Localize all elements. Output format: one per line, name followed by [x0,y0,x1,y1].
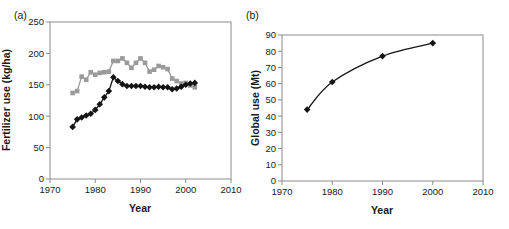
data-point-gray-squares [143,61,148,66]
x-tick-label: 2010 [220,184,241,195]
y-tick-label: 200 [28,48,44,59]
data-point-gray-squares [138,56,143,61]
data-point-gray-squares [84,77,89,82]
x-tick-label: 2000 [175,184,196,195]
data-point-gray-squares [107,69,112,74]
panel-b-label: (b) [246,9,259,21]
data-point-black-diamonds [429,40,436,47]
y-tick-label: 0 [271,175,276,186]
data-point-gray-squares [111,59,116,64]
data-point-gray-squares [170,76,175,81]
x-tick-label: 1980 [85,184,106,195]
panel-b-x-axis-title: Year [371,204,393,216]
data-point-gray-squares [70,91,75,96]
data-point-gray-squares [125,61,130,66]
data-point-gray-squares [88,70,93,75]
series-line-black-diamonds [73,77,195,127]
plot-area-a: 05010015020025019701980199020002010 [28,16,241,195]
data-point-gray-squares [174,79,179,84]
x-tick-label: 1970 [271,186,292,197]
data-point-gray-squares [134,61,139,66]
data-point-gray-squares [152,67,157,72]
figure-canvas: (a) Fertilizer use (kg/ha) 0501001502002… [0,0,509,229]
data-point-gray-squares [97,71,102,76]
chart-panel-b: (b) Global use (Mt) 01020304050607080901… [244,0,509,229]
data-point-gray-squares [147,69,152,74]
y-tick-label: 150 [28,79,44,90]
x-tick-label: 2010 [472,186,493,197]
plot-border [50,22,231,179]
x-tick-label: 1970 [39,184,60,195]
y-tick-label: 0 [39,173,44,184]
data-point-gray-squares [120,56,125,61]
x-tick-label: 1980 [322,186,343,197]
chart-panel-a: (a) Fertilizer use (kg/ha) 0501001502002… [0,0,250,229]
y-tick-label: 60 [265,78,276,89]
data-point-black-diamonds [379,53,386,60]
y-tick-label: 40 [265,111,276,122]
x-tick-label: 2000 [422,186,443,197]
series-line-black-diamonds [307,43,433,110]
y-tick-label: 70 [265,62,276,73]
panel-a-y-axis-title: Fertilizer use (kg/ha) [0,49,12,151]
data-point-gray-squares [102,70,107,75]
data-point-gray-squares [161,65,166,70]
y-tick-label: 250 [28,16,44,27]
x-tick-label: 1990 [130,184,151,195]
y-tick-label: 50 [33,142,44,153]
data-point-gray-squares [116,59,121,64]
panel-b-y-axis-title: Global use (Mt) [249,70,261,146]
panel-a-label: (a) [14,9,27,21]
data-point-gray-squares [129,66,134,71]
x-tick-label: 1990 [372,186,393,197]
data-point-gray-squares [165,67,170,72]
plot-area-b: 010203040506070809019701980199020002010 [265,29,493,197]
y-tick-label: 50 [265,94,276,105]
y-tick-label: 90 [265,29,276,40]
data-point-gray-squares [156,64,161,69]
y-tick-label: 30 [265,127,276,138]
data-point-gray-squares [93,72,98,77]
y-tick-label: 80 [265,46,276,57]
y-tick-label: 10 [265,159,276,170]
y-tick-label: 100 [28,111,44,122]
y-tick-label: 20 [265,143,276,154]
data-point-gray-squares [75,89,80,94]
data-point-gray-squares [79,74,84,79]
data-point-black-diamonds [69,124,76,131]
panel-a-x-axis-title: Year [129,202,151,214]
